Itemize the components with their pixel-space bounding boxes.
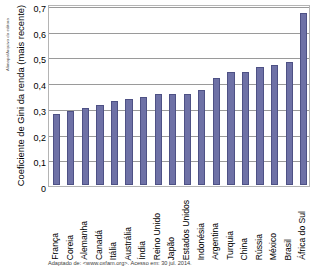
bar bbox=[271, 65, 278, 185]
x-tick-label-text: Índia bbox=[138, 241, 147, 260]
y-axis-title: Coeficiente de Gini da renda (mais recen… bbox=[14, 2, 28, 188]
bar bbox=[67, 111, 74, 185]
x-tick-label-text: Itália bbox=[109, 242, 118, 260]
y-axis-tick-labels: 00,10,20,30,40,50,60,7 bbox=[28, 5, 46, 187]
bar bbox=[227, 72, 234, 185]
y-tick-label: 0,1 bbox=[33, 158, 46, 168]
bar-series bbox=[49, 6, 309, 186]
y-tick-label: 0,3 bbox=[33, 107, 46, 117]
bar bbox=[213, 78, 220, 185]
y-tick-label: 0,4 bbox=[33, 81, 46, 91]
x-tick-label-text: Reino Unido bbox=[153, 213, 162, 260]
bar bbox=[256, 67, 263, 185]
bar bbox=[140, 97, 147, 185]
x-tick-label-text: Austrália bbox=[124, 227, 133, 260]
bar bbox=[53, 114, 60, 185]
x-tick-label-text: Coreia bbox=[66, 235, 75, 260]
editor-credit: Alimapa/Arquivo da editora bbox=[0, 0, 14, 120]
y-tick-label: 0,7 bbox=[33, 4, 46, 14]
bar bbox=[242, 72, 249, 185]
x-tick-label-text: Turquia bbox=[226, 231, 235, 260]
x-tick-label-text: Brasil bbox=[284, 239, 293, 261]
x-tick-label-text: Rússia bbox=[255, 234, 264, 260]
editor-credit-text: Alimapa/Arquivo da editora bbox=[5, 18, 10, 71]
bar bbox=[111, 101, 118, 185]
x-tick-label-text: França bbox=[51, 233, 60, 260]
x-tick-label-text: Canadá bbox=[95, 230, 104, 260]
bar bbox=[155, 94, 162, 185]
plot-area bbox=[48, 5, 310, 187]
x-tick-label-text: Argentina bbox=[211, 223, 220, 260]
x-axis-tick-labels: FrançaCoreiaAlemanhaCanadáItáliaAustráli… bbox=[48, 188, 310, 262]
y-tick-label: 0 bbox=[41, 184, 46, 194]
x-tick-label-text: África do Sul bbox=[298, 211, 307, 260]
bar bbox=[125, 99, 132, 185]
x-tick-label-text: Estados Unidos bbox=[182, 200, 191, 260]
y-tick-label: 0,6 bbox=[33, 30, 46, 40]
bar bbox=[82, 108, 89, 185]
bar bbox=[96, 105, 103, 185]
x-tick-label-text: México bbox=[269, 233, 278, 260]
x-tick-label-text: Alemanha bbox=[80, 221, 89, 260]
bar bbox=[286, 62, 293, 185]
bar bbox=[198, 90, 205, 185]
y-axis-title-text: Coeficiente de Gini da renda (mais recen… bbox=[16, 4, 27, 185]
bar bbox=[300, 13, 307, 185]
y-tick-label: 0,2 bbox=[33, 133, 46, 143]
x-tick-label-text: China bbox=[240, 238, 249, 260]
x-tick-label-text: Japão bbox=[167, 237, 176, 260]
source-note: Adaptado de: <www.oxfam.org>. Acesso em:… bbox=[48, 260, 312, 266]
bar bbox=[184, 94, 191, 185]
y-tick-label: 0,5 bbox=[33, 55, 46, 65]
x-tick-label-text: Indonésia bbox=[197, 223, 206, 260]
gini-bar-chart: Coeficiente de Gini da renda (mais recen… bbox=[14, 2, 312, 266]
bar bbox=[169, 94, 176, 185]
